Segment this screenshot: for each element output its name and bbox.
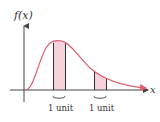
brace-tail [94, 96, 106, 99]
x-axis-label: x [150, 84, 156, 95]
density-curve [26, 41, 146, 90]
brace-peak [53, 96, 65, 99]
density-diagram: f(x) x 1 unit 1 unit [0, 0, 160, 122]
shaded-band-peak [53, 0, 65, 90]
shaded-regions [53, 0, 106, 90]
interval-label-tail: 1 unit [89, 103, 115, 113]
interval-label-peak: 1 unit [48, 103, 74, 113]
shaded-band-tail [94, 0, 106, 90]
y-axis-label: f(x) [13, 9, 33, 22]
